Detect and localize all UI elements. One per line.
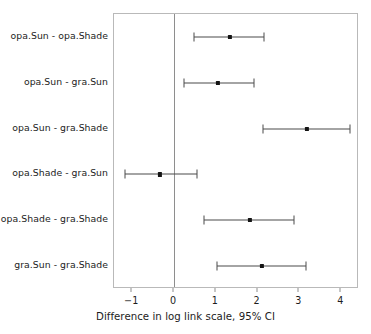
x-tick-mark bbox=[131, 288, 132, 292]
x-tick-label: −1 bbox=[124, 296, 138, 306]
y-axis-category-labels: opa.Sun - opa.Shadeopa.Sun - gra.Sunopa.… bbox=[0, 0, 108, 334]
ci-upper-cap bbox=[306, 262, 307, 271]
x-tick-mark bbox=[298, 288, 299, 292]
estimate-point bbox=[158, 172, 162, 176]
x-tick-mark bbox=[256, 288, 257, 292]
y-axis-label: opa.Sun - gra.Shade bbox=[12, 123, 108, 132]
ci-lower-cap bbox=[125, 170, 126, 179]
x-tick-mark bbox=[340, 288, 341, 292]
interval-row bbox=[114, 213, 357, 227]
x-tick-mark bbox=[173, 288, 174, 292]
estimate-point bbox=[305, 126, 309, 130]
estimate-point bbox=[260, 264, 264, 268]
x-tick-mark bbox=[214, 288, 215, 292]
x-tick-label: 4 bbox=[337, 296, 343, 306]
y-axis-label: opa.Shade - gra.Shade bbox=[1, 215, 108, 224]
interval-row bbox=[114, 167, 357, 181]
ci-lower-cap bbox=[263, 124, 264, 133]
estimate-point bbox=[216, 81, 220, 85]
x-tick-label: 2 bbox=[254, 296, 260, 306]
y-axis-label: opa.Sun - gra.Sun bbox=[24, 77, 108, 86]
y-axis-label: gra.Sun - gra.Shade bbox=[14, 260, 108, 269]
x-tick-label: 3 bbox=[295, 296, 301, 306]
ci-lower-cap bbox=[194, 32, 195, 41]
ci-upper-cap bbox=[293, 216, 294, 225]
estimate-point bbox=[248, 218, 252, 222]
x-axis-title: Difference in log link scale, 95% CI bbox=[0, 312, 371, 322]
ci-lower-cap bbox=[217, 262, 218, 271]
y-axis-label: opa.Shade - gra.Sun bbox=[12, 169, 108, 178]
x-tick-label: 0 bbox=[170, 296, 176, 306]
y-axis-label: opa.Sun - opa.Shade bbox=[11, 31, 109, 40]
interval-row bbox=[114, 259, 357, 273]
interval-row bbox=[114, 122, 357, 136]
ci-lower-cap bbox=[204, 216, 205, 225]
interval-row bbox=[114, 30, 357, 44]
ci-upper-cap bbox=[196, 170, 197, 179]
estimate-point bbox=[228, 35, 232, 39]
ci-upper-cap bbox=[253, 78, 254, 87]
x-tick-label: 1 bbox=[212, 296, 218, 306]
ci-upper-cap bbox=[263, 32, 264, 41]
ci-lower-cap bbox=[184, 78, 185, 87]
forest-plot-figure: opa.Sun - opa.Shadeopa.Sun - gra.Sunopa.… bbox=[0, 0, 371, 334]
ci-upper-cap bbox=[349, 124, 350, 133]
interval-row bbox=[114, 76, 357, 90]
zero-reference-line bbox=[174, 14, 175, 287]
plot-panel bbox=[113, 13, 358, 288]
